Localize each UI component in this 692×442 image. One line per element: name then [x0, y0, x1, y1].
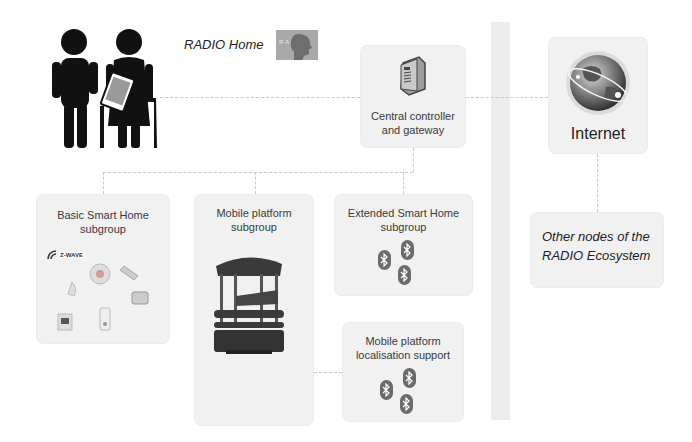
bluetooth-icon: [403, 368, 416, 388]
connector-mobile-to-localisation: [314, 372, 342, 373]
page-title: RADIO Home: [184, 37, 263, 52]
central-controller-node: Central controller and gateway: [360, 45, 466, 148]
other-nodes-label-line2: RADIO Ecosystem: [542, 248, 650, 263]
mobile-platform-subgroup: Mobile platform subgroup: [194, 194, 314, 426]
mobile-label-line1: Mobile platform: [194, 206, 314, 220]
connector-to-extended: [403, 172, 404, 194]
other-nodes-label-line1: Other nodes of the: [542, 229, 650, 244]
robot-icon: [212, 250, 286, 360]
basic-label-line2: subgroup: [36, 222, 170, 236]
smart-home-devices-icon: [48, 254, 160, 336]
connector-to-mobile: [255, 172, 256, 194]
radio-logo: RADIO: [276, 30, 318, 60]
mobile-label-line2: subgroup: [194, 220, 314, 234]
controller-label-line1: Central controller: [360, 109, 466, 123]
bluetooth-icon: [380, 380, 393, 400]
extended-smart-home-subgroup: Extended Smart Home subgroup: [334, 194, 473, 296]
bluetooth-icon: [398, 265, 411, 285]
home-boundary-wall: [491, 22, 510, 420]
internet-node: Internet: [548, 37, 648, 154]
localisation-support-subgroup: Mobile platform localisation support: [342, 322, 464, 422]
server-icon: [397, 55, 429, 101]
connector-controller-down: [413, 148, 414, 172]
bluetooth-icon: [378, 250, 391, 270]
other-nodes-box: Other nodes of the RADIO Ecosystem: [530, 212, 664, 288]
internet-label: Internet: [548, 125, 648, 143]
connector-users-to-controller: [160, 97, 360, 98]
extended-label-line1: Extended Smart Home: [334, 206, 473, 220]
basic-smart-home-subgroup: Basic Smart Home subgroup Z-WAVE: [36, 194, 170, 344]
basic-label-line1: Basic Smart Home: [36, 208, 170, 222]
connector-subgroups-bus: [103, 172, 413, 173]
globe-icon: [562, 47, 634, 123]
connector-internet-to-other-nodes: [597, 154, 598, 212]
connector-to-basic: [103, 172, 104, 194]
elderly-couple-icon: [44, 26, 164, 151]
localisation-label-line2: localisation support: [342, 348, 464, 362]
localisation-label-line1: Mobile platform: [342, 334, 464, 348]
controller-label-line2: and gateway: [360, 123, 466, 137]
bluetooth-icon: [400, 394, 413, 414]
connector-controller-to-internet: [466, 97, 548, 98]
extended-label-line2: subgroup: [334, 220, 473, 234]
bluetooth-icon: [401, 240, 414, 260]
